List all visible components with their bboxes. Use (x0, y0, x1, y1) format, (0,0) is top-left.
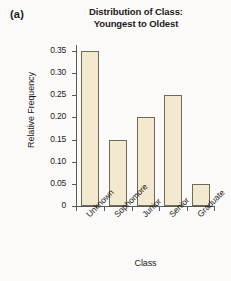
chart-title-line-1: Distribution of Class: (46, 6, 226, 18)
y-axis-tick-label: 0.25 (50, 89, 66, 99)
panel-label: (a) (10, 8, 24, 20)
x-axis-tick (214, 207, 215, 211)
y-axis-tick: 0.25 (72, 95, 76, 96)
y-axis-tick: 0.15 (72, 140, 76, 141)
x-axis-tick (187, 207, 188, 211)
chart-title: Distribution of Class: Youngest to Oldes… (46, 6, 226, 29)
y-axis-tick-label: 0 (61, 200, 66, 210)
y-axis-tick: 0.35 (72, 51, 76, 52)
plot-area: 00.050.100.150.200.250.300.35 (76, 45, 215, 207)
bar (164, 95, 182, 206)
y-axis-tick: 0.20 (72, 117, 76, 118)
y-axis-tick: 0.30 (72, 73, 76, 74)
y-axis-tick-label: 0.30 (50, 67, 66, 77)
y-axis-line (76, 45, 77, 207)
y-axis-tick-label: 0.05 (50, 178, 66, 188)
y-axis-tick-label: 0.20 (50, 111, 66, 121)
figure: (a) Distribution of Class: Youngest to O… (0, 0, 231, 281)
x-axis-tick (76, 207, 77, 211)
y-axis-tick: 0.05 (72, 184, 76, 185)
x-axis-tick (159, 207, 160, 211)
x-axis-tick (104, 207, 105, 211)
y-axis-tick-label: 0.10 (50, 156, 66, 166)
x-axis-title: Class (76, 258, 215, 268)
y-axis-title: Relative Frequency (26, 50, 36, 170)
bar (81, 51, 99, 206)
y-axis-tick: 0.10 (72, 162, 76, 163)
y-axis-tick-label: 0.15 (50, 134, 66, 144)
x-axis-tick (132, 207, 133, 211)
y-axis-tick-label: 0.35 (50, 45, 66, 55)
chart-title-line-2: Youngest to Oldest (46, 18, 226, 30)
